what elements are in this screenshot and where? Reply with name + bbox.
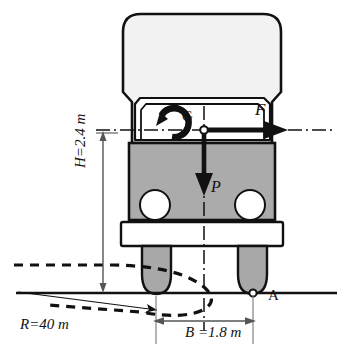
vehicle-rollover-diagram (0, 0, 341, 352)
bumper-bar (121, 222, 283, 246)
track-width-label: B =1.8 m (185, 324, 241, 341)
h-dimension-arrowhead-bottom (100, 283, 107, 293)
contact-point-a-label: A (268, 287, 279, 304)
b-dimension-arrowhead-right (245, 317, 256, 325)
center-of-gravity-label: G (182, 108, 193, 125)
b-dimension-arrowhead-left (153, 317, 164, 325)
turn-radius-curve (14, 265, 212, 315)
contact-point-a-marker (249, 289, 256, 296)
height-dimension-label: H=2.4 m (72, 114, 89, 168)
diagram-canvas: F G P A H=2.4 m R=40 m B =1.8 m (0, 0, 341, 352)
weight-label: P (211, 178, 221, 196)
force-label: F (255, 100, 265, 120)
center-of-gravity-point (200, 126, 208, 134)
radius-label: R=40 m (20, 316, 69, 333)
headlight-left (140, 190, 170, 220)
force-arrow-head (264, 121, 288, 139)
tire-right (238, 246, 267, 294)
headlight-right (235, 190, 265, 220)
